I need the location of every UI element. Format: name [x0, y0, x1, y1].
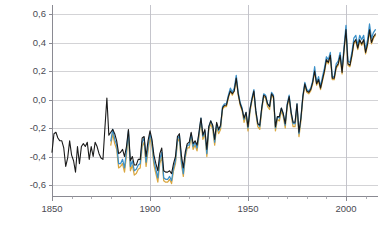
x-tick-label: 1900 [139, 203, 160, 214]
x-axis-tick-labels: 1850190019502000 [41, 203, 356, 214]
y-tick-label: -0,2 [30, 122, 46, 133]
y-tick-label: 0,6 [33, 8, 46, 19]
data-series-group [52, 24, 375, 184]
x-tick-label: 1850 [41, 203, 62, 214]
x-tick-label: 2000 [335, 203, 356, 214]
series-line-black [52, 30, 375, 174]
y-axis-ticks [49, 15, 52, 186]
y-tick-label: -0,4 [30, 151, 46, 162]
y-tick-label: 0,0 [33, 94, 46, 105]
y-axis-tick-labels: -0,6-0,4-0,20,00,20,40,6 [30, 8, 46, 190]
temperature-anomaly-chart: -0,6-0,4-0,20,00,20,40,6 185019001950200… [0, 0, 392, 230]
x-tick-label: 1950 [237, 203, 258, 214]
chart-canvas: -0,6-0,4-0,20,00,20,40,6 185019001950200… [0, 0, 392, 230]
y-tick-label: -0,6 [30, 179, 46, 190]
y-tick-label: 0,2 [33, 65, 46, 76]
y-tick-label: 0,4 [33, 37, 46, 48]
horizontal-gridlines [52, 15, 378, 186]
